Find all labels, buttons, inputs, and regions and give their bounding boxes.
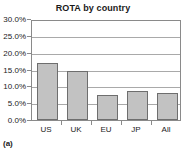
plot-area: [31, 20, 181, 121]
y-axis-label: 20.0%: [0, 49, 26, 58]
chart-title: ROTA by country: [0, 3, 186, 14]
bar-all: [157, 93, 178, 120]
bar-us: [37, 63, 58, 120]
x-axis-label-jp: JP: [121, 125, 151, 135]
y-axis-label: 30.0%: [0, 15, 26, 24]
x-axis-label-all: All: [151, 125, 181, 135]
y-axis-label: 0.0%: [0, 116, 26, 125]
bar-slot: [127, 21, 148, 120]
y-axis-label: 5.0%: [0, 99, 26, 108]
bar-slot: [97, 21, 118, 120]
bar-eu: [97, 95, 118, 120]
bar-uk: [67, 71, 88, 120]
y-axis-label: 10.0%: [0, 82, 26, 91]
bar-slot: [157, 21, 178, 120]
x-axis-label-eu: EU: [91, 125, 121, 135]
bars-group: [32, 21, 180, 120]
x-axis-label-us: US: [31, 125, 61, 135]
figure-panel: ROTA by country 0.0%5.0%10.0%15.0%20.0%2…: [0, 0, 186, 154]
bar-slot: [37, 21, 58, 120]
y-axis-label: 15.0%: [0, 66, 26, 75]
x-axis-label-uk: UK: [61, 125, 91, 135]
y-axis-label: 25.0%: [0, 32, 26, 41]
figure-caption: (a): [3, 139, 13, 149]
bar-jp: [127, 91, 148, 120]
bar-slot: [67, 21, 88, 120]
